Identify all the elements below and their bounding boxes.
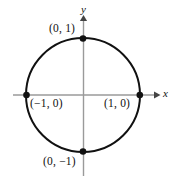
point-marker-bottom [80, 148, 87, 155]
point-marker-top [80, 35, 87, 42]
point-label-right: (1, 0) [104, 97, 130, 109]
y-axis-label: y [81, 3, 86, 15]
point-label-left: (−1, 0) [30, 97, 63, 109]
x-axis-arrowhead [154, 91, 161, 98]
point-marker-right [137, 92, 144, 99]
point-marker-left [23, 92, 30, 99]
point-label-top: (0, 1) [49, 22, 75, 34]
y-axis-arrowhead [80, 15, 87, 21]
x-axis-label: x [163, 87, 168, 99]
unit-circle-figure: (0, 1) (−1, 0) (1, 0) (0, −1) x y [0, 0, 174, 181]
figure-canvas [0, 0, 174, 181]
point-label-bottom: (0, −1) [43, 155, 76, 167]
